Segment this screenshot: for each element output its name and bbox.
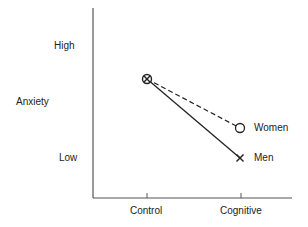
y-tick-label-low: Low: [59, 152, 77, 163]
chart-canvas: [0, 0, 308, 227]
start-marker-circle-x: [143, 75, 152, 84]
legend-men: Men: [254, 152, 273, 163]
y-axis-label: Anxiety: [16, 96, 49, 107]
x-tick-label-cognitive: Cognitive: [220, 205, 262, 216]
y-tick-label-high: High: [54, 40, 75, 51]
x-tick-label-control: Control: [130, 205, 162, 216]
men-marker-x: [237, 155, 244, 162]
men-line: [147, 79, 240, 158]
legend-women: Women: [254, 122, 288, 133]
women-line: [147, 79, 240, 128]
women-marker-circle: [236, 124, 245, 133]
